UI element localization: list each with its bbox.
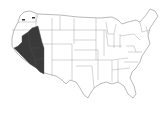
- water-mark-icon: [32, 17, 35, 19]
- highlighted-region: [14, 26, 44, 74]
- us-map-svg: [0, 0, 168, 114]
- water-mark-icon: [22, 19, 25, 21]
- us-map: [0, 0, 168, 114]
